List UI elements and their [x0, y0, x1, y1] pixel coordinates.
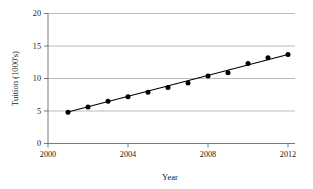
data-point [286, 52, 291, 57]
data-point [146, 90, 151, 95]
chart-canvas: 20 15 10 5 0 2000 2004 2008 2012 Year Tu… [0, 0, 313, 189]
y-tick-label-10: 10 [33, 74, 41, 83]
y-tick-label-20: 20 [33, 9, 41, 18]
data-point [226, 70, 231, 75]
data-point [206, 73, 211, 78]
chart-background [0, 0, 313, 189]
y-axis-title: Tuition (1000's) [10, 51, 20, 106]
tuition-vs-year-chart: 20 15 10 5 0 2000 2004 2008 2012 Year Tu… [0, 0, 313, 189]
data-point [86, 105, 91, 110]
x-tick-label-2012: 2012 [280, 150, 296, 159]
data-point [186, 81, 191, 86]
y-tick-label-0: 0 [37, 139, 41, 148]
x-axis-title: Year [162, 172, 178, 182]
y-tick-label-5: 5 [37, 107, 41, 116]
data-point [246, 61, 251, 66]
x-tick-label-2004: 2004 [120, 150, 136, 159]
data-point [126, 94, 131, 99]
data-point [166, 85, 171, 90]
x-tick-label-2000: 2000 [40, 150, 56, 159]
data-point [66, 110, 71, 115]
data-point [106, 99, 111, 104]
data-point [266, 55, 271, 60]
x-tick-label-2008: 2008 [200, 150, 216, 159]
y-tick-label-15: 15 [33, 42, 41, 51]
